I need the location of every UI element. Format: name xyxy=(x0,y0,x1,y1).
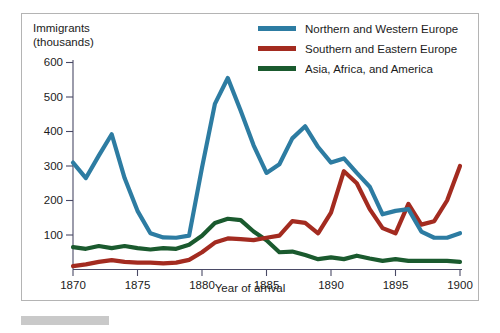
x-tick-label-1900: 1900 xyxy=(440,279,480,291)
x-axis-ticks xyxy=(73,270,460,277)
x-tick-label-1885: 1885 xyxy=(247,279,287,291)
legend-swatch-asia-africa-and-america xyxy=(258,66,296,71)
y-axis-title-line1: Immigrants xyxy=(33,22,90,34)
y-tick-label-100: 100 xyxy=(33,229,63,241)
x-tick-label-1895: 1895 xyxy=(376,279,416,291)
x-tick-label-1875: 1875 xyxy=(118,279,158,291)
legend-label-asia-africa-and-america: Asia, Africa, and America xyxy=(305,63,433,75)
series-line-southern-and-eastern-europe xyxy=(73,166,460,266)
y-tick-label-300: 300 xyxy=(33,160,63,172)
caption-placeholder-bar xyxy=(21,316,109,325)
legend-swatch-southern-and-eastern-europe xyxy=(258,46,296,51)
y-tick-label-200: 200 xyxy=(33,194,63,206)
series-line-asia-africa-and-america xyxy=(73,219,460,262)
x-tick-label-1870: 1870 xyxy=(53,279,93,291)
legend-item-northern-and-western-europe: Northern and Western Europe xyxy=(258,20,458,37)
legend-label-southern-and-eastern-europe: Southern and Eastern Europe xyxy=(305,43,457,55)
chart-legend: Northern and Western Europe Southern and… xyxy=(258,20,458,80)
y-tick-label-500: 500 xyxy=(33,91,63,103)
x-tick-label-1880: 1880 xyxy=(182,279,222,291)
y-axis-ticks xyxy=(66,63,73,236)
y-tick-label-600: 600 xyxy=(33,56,63,68)
y-tick-label-400: 400 xyxy=(33,125,63,137)
x-tick-label-1890: 1890 xyxy=(311,279,351,291)
legend-swatch-northern-and-western-europe xyxy=(258,26,296,31)
legend-item-asia-africa-and-america: Asia, Africa, and America xyxy=(258,60,458,77)
figure-container: Immigrants (thousands) Year of arrival 6… xyxy=(0,0,500,333)
legend-label-northern-and-western-europe: Northern and Western Europe xyxy=(305,23,458,35)
y-axis-title-line2: (thousands) xyxy=(33,36,94,48)
legend-item-southern-and-eastern-europe: Southern and Eastern Europe xyxy=(258,40,458,57)
